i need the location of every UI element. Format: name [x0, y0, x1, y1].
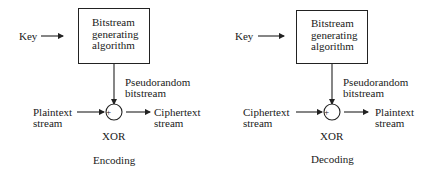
bitstream-label-encoding: Pseudorandom bitstream: [125, 77, 190, 99]
bitstream-generator-box-encoding: Bitstream generating algorithm: [78, 8, 150, 64]
box-line: algorithm: [92, 40, 149, 52]
xor-label-decoding: XOR: [320, 131, 343, 142]
key-label-decoding: Key: [235, 31, 253, 42]
output-label-encoding: Ciphertext stream: [154, 107, 200, 129]
bitstream-generator-box-decoding: Bitstream generating algorithm: [296, 10, 368, 64]
xor-symbol-decoding: +: [324, 107, 329, 118]
caption-encoding: Encoding: [93, 155, 135, 166]
input-label-encoding: Plaintext stream: [33, 107, 72, 129]
key-label-encoding: Key: [19, 31, 37, 42]
bitstream-label-decoding: Pseudorandom bitstream: [343, 77, 408, 99]
output-label-decoding: Plaintext stream: [375, 107, 414, 129]
xor-symbol-encoding: +: [106, 107, 111, 118]
input-label-decoding: Ciphertext stream: [243, 107, 289, 129]
box-line: algorithm: [311, 41, 367, 53]
caption-decoding: Decoding: [311, 154, 354, 165]
box-line: Bitstream: [92, 17, 149, 29]
box-line: Bitstream: [311, 18, 367, 30]
xor-label-encoding: XOR: [102, 131, 125, 142]
